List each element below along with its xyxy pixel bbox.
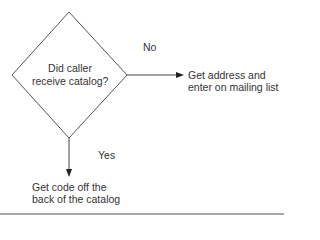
no-action-line-1: Get address and [188,69,266,81]
decision-line-1: Did caller [38,62,102,74]
arrowhead-right-icon [176,72,184,78]
no-label: No [143,41,156,53]
yes-action-line-1: Get code off the [32,181,107,193]
arrowhead-down-icon [66,169,72,177]
decision-line-2: receive catalog? [32,75,108,87]
yes-label: Yes [98,149,115,161]
yes-action-line-2: back of the catalog [32,193,120,205]
decision-text-2: receive catalog? [32,75,108,87]
no-action-line-2: enter on mailing list [188,81,278,93]
decision-text: Did caller [38,62,102,74]
